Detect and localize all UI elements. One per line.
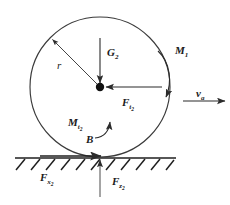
label-tangential-force-Ft2: Ft2 xyxy=(122,97,134,108)
ground-hatching xyxy=(16,159,174,170)
label-driving-moment-M1: M1 xyxy=(175,45,188,56)
label-contact-point-B: B xyxy=(86,134,93,145)
label-normal-force-Fz2: Fz2 xyxy=(112,176,125,187)
label-resisting-moment-Mt2: Mt2 xyxy=(68,117,83,128)
label-velocity-va: va xyxy=(196,88,204,99)
label-weight-G2: G2 xyxy=(107,47,118,58)
label-radius-r: r xyxy=(57,60,61,71)
label-friction-force-Fx2: Fx2 xyxy=(40,172,54,183)
wheel-center-dot xyxy=(96,83,104,91)
resisting-moment-arc xyxy=(95,122,110,138)
driving-moment-arc xyxy=(158,51,170,97)
diagram-canvas: G2 M1 Ft2 Mt2 B r va Fx2 Fz2 xyxy=(0,0,230,205)
